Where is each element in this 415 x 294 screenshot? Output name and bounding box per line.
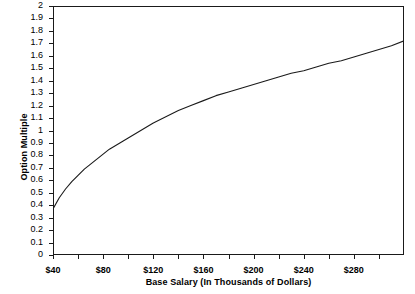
y-axis-tick-label: 0.2	[30, 225, 43, 234]
y-axis-tick-label: 0.4	[30, 200, 43, 209]
y-axis-tick-label: 1.9	[30, 13, 43, 22]
x-axis-tick: $80	[103, 255, 104, 259]
x-axis-tick-label: $280	[344, 266, 364, 275]
x-axis-tick: $280	[354, 255, 355, 259]
x-axis-minor-tick	[178, 255, 179, 259]
x-axis-tick: $40	[53, 255, 54, 259]
x-axis-minor-tick	[229, 255, 230, 259]
y-axis-tick-label: 0.1	[30, 238, 43, 247]
x-axis-tick-label: $40	[45, 266, 60, 275]
y-axis-tick-label: 0.3	[30, 213, 43, 222]
x-axis-tick-label: $200	[244, 266, 264, 275]
y-axis-tick-label: 0.8	[30, 150, 43, 159]
y-axis-tick-label: 2	[38, 1, 43, 10]
y-axis-tick-label: 1.2	[30, 101, 43, 110]
data-line-series	[53, 6, 404, 255]
x-axis-minor-tick	[279, 255, 280, 259]
x-axis-tick: $120	[153, 255, 154, 259]
y-axis-tick-label: 1.4	[30, 76, 43, 85]
x-axis-minor-tick	[379, 255, 380, 259]
plot-area: 00.10.20.30.40.50.60.70.80.911.11.21.31.…	[53, 6, 404, 255]
y-axis-tick-label: 1.1	[30, 113, 43, 122]
x-axis-minor-tick	[329, 255, 330, 259]
y-axis-tick-label: 1	[38, 126, 43, 135]
x-axis-minor-tick	[128, 255, 129, 259]
y-axis-tick-label: 1.8	[30, 26, 43, 35]
x-axis-tick-label: $120	[143, 266, 163, 275]
y-axis-tick-label: 1.3	[30, 88, 43, 97]
chart-figure: Option Multiple 00.10.20.30.40.50.60.70.…	[0, 0, 415, 294]
x-axis-tick-label: $160	[193, 266, 213, 275]
x-axis-tick: $160	[203, 255, 204, 259]
y-axis-tick-label: 1.7	[30, 38, 43, 47]
y-axis-tick-label: 1.6	[30, 51, 43, 60]
y-axis-tick-label: 0.9	[30, 138, 43, 147]
y-axis-tick-label: 0.5	[30, 188, 43, 197]
y-axis-tick-label: 0.7	[30, 163, 43, 172]
x-axis-minor-tick	[78, 255, 79, 259]
x-axis-tick-label: $80	[96, 266, 111, 275]
y-axis-tick-label: 0.6	[30, 175, 43, 184]
y-axis-tick-label: 1.5	[30, 63, 43, 72]
y-axis-tick-label: 0	[38, 250, 43, 259]
x-axis-tick: $240	[304, 255, 305, 259]
x-axis-tick-label: $240	[294, 266, 314, 275]
x-axis-title: Base Salary (In Thousands of Dollars)	[53, 277, 404, 287]
x-axis-tick: $200	[254, 255, 255, 259]
